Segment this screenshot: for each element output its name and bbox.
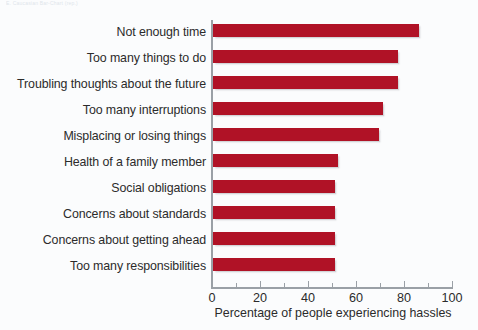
bar [213, 232, 335, 245]
x-tick-label: 40 [301, 291, 315, 305]
bar-category-label: Concerns about standards [63, 201, 206, 227]
x-tick-major [308, 281, 309, 289]
x-tick-minor [236, 283, 237, 289]
x-tick-label: 100 [441, 291, 462, 305]
bar-row: Too many things to do [0, 45, 478, 71]
x-tick-major [452, 281, 453, 289]
bar [213, 258, 335, 271]
bar [213, 50, 398, 63]
bar-row: Concerns about getting ahead [0, 227, 478, 253]
bar-row: Troubling thoughts about the future [0, 71, 478, 97]
bar [213, 206, 335, 219]
x-tick-label: 60 [349, 291, 363, 305]
x-tick-major [212, 281, 213, 289]
bar-row: Not enough time [0, 19, 478, 45]
bar-category-label: Troubling thoughts about the future [17, 71, 206, 97]
bar-category-label: Too many things to do [87, 45, 206, 71]
bar-row: Too many interruptions [0, 97, 478, 123]
x-axis-title: Percentage of people experiencing hassle… [212, 306, 454, 320]
bar-category-label: Too many responsibilities [70, 253, 206, 279]
plot-area: Not enough timeToo many things to doTrou… [0, 0, 478, 330]
bar-category-label: Health of a family member [64, 149, 206, 175]
x-tick-minor [332, 283, 333, 289]
bar-row: Health of a family member [0, 149, 478, 175]
x-tick-minor [428, 283, 429, 289]
bar-row: Social obligations [0, 175, 478, 201]
bar-category-label: Social obligations [111, 175, 206, 201]
x-tick-label: 0 [208, 291, 215, 305]
bar [213, 128, 379, 141]
bar-category-label: Not enough time [117, 19, 206, 45]
x-tick-minor [284, 283, 285, 289]
bar-chart: Not enough timeToo many things to doTrou… [0, 0, 478, 330]
x-tick-major [260, 281, 261, 289]
bar-category-label: Concerns about getting ahead [43, 227, 206, 253]
bar [213, 24, 419, 37]
bar [213, 154, 338, 167]
x-tick-label: 80 [397, 291, 411, 305]
bar [213, 102, 383, 115]
x-tick-major [356, 281, 357, 289]
x-tick-minor [380, 283, 381, 289]
bar-row: Too many responsibilities [0, 253, 478, 279]
x-tick-label: 20 [253, 291, 267, 305]
bar-category-label: Too many interruptions [83, 97, 206, 123]
bar [213, 76, 398, 89]
bar-category-label: Misplacing or losing things [63, 123, 206, 149]
bar [213, 180, 335, 193]
bar-row: Concerns about standards [0, 201, 478, 227]
bar-row: Misplacing or losing things [0, 123, 478, 149]
x-tick-major [404, 281, 405, 289]
